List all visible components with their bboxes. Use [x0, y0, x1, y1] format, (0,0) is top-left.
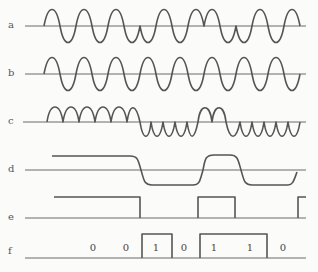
- waveform-e: [54, 197, 306, 218]
- bit-3: 0: [181, 242, 187, 253]
- bit-0: 0: [90, 242, 96, 253]
- bit-4: 1: [211, 242, 217, 253]
- bit-6: 0: [280, 242, 286, 253]
- bit-1: 0: [123, 242, 129, 253]
- demodulation-diagram: a b c d e f 0 0 1 0 1 1 0: [0, 0, 318, 272]
- waveforms: [0, 0, 318, 272]
- bit-2: 1: [153, 242, 159, 253]
- bit-5: 1: [247, 242, 253, 253]
